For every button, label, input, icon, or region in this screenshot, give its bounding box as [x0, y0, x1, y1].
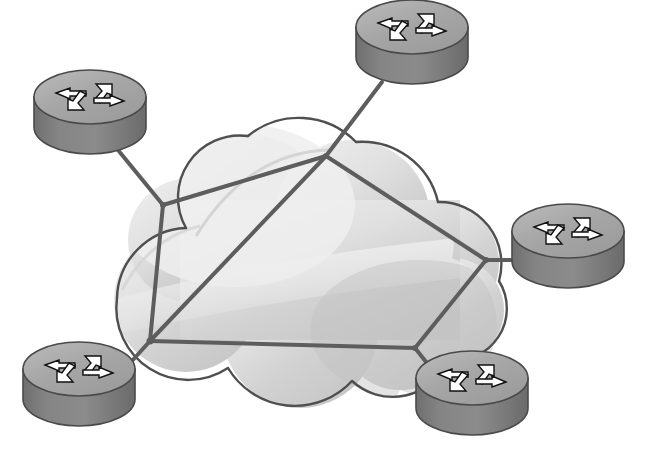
router-body-top: [34, 70, 146, 124]
router-body-top: [23, 342, 135, 396]
junction-s[interactable]: [412, 345, 418, 351]
network-topology-svg: [0, 0, 662, 475]
junction-sw[interactable]: [147, 338, 154, 345]
link-router-top-left-to-nw[interactable]: [118, 150, 163, 205]
router-top-left[interactable]: [34, 70, 146, 154]
junction-e[interactable]: [483, 257, 489, 263]
router-top[interactable]: [356, 0, 468, 84]
junction-n[interactable]: [323, 153, 329, 159]
router-right[interactable]: [512, 204, 624, 288]
router-body-top: [356, 0, 468, 54]
diagram-canvas: Network cloud topology with five routers: [0, 0, 662, 475]
junction-nw[interactable]: [160, 202, 166, 208]
router-bottom-left[interactable]: [23, 342, 135, 426]
router-body-top: [416, 351, 528, 405]
router-bottom-right[interactable]: [416, 351, 528, 435]
router-body-top: [512, 204, 624, 258]
